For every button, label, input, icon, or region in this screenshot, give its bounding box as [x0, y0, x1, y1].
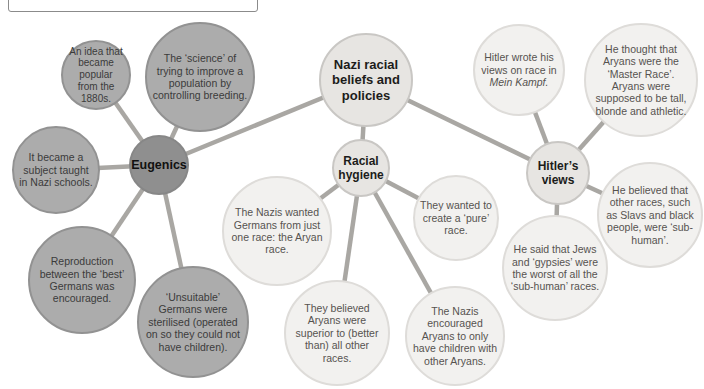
mind-map-diagram: An idea that became popular from the 188…	[0, 0, 704, 389]
hub-label: Racial hygiene	[338, 154, 383, 182]
racial-hygiene-satellite-children: The Nazis encouraged Aryans to only have…	[405, 286, 505, 386]
racial-hygiene-hub: Racial hygiene	[332, 139, 390, 197]
racial-hygiene-satellite-one-race: The Nazis wanted Germans from just one r…	[222, 176, 332, 286]
node-text: He thought that Aryans were the ‘Master …	[591, 43, 691, 117]
central-label: Nazi racial beliefs and policies	[326, 57, 406, 103]
hitlers-views-satellite-jews-gypsies: He said that Jews and ‘gypsies’ were the…	[502, 215, 608, 321]
mein-kampf-text: Hitler wrote his views on race in	[481, 51, 556, 75]
node-text: He believed that other races, such as Sl…	[604, 184, 696, 246]
eugenics-satellite-idea-1880s: An idea that became popular from the 188…	[61, 40, 131, 110]
eugenics-satellite-nazi-schools: It became a subject taught in Nazi schoo…	[12, 126, 100, 214]
node-text: They wanted to create a ‘pure’ race.	[420, 199, 492, 236]
racial-hygiene-satellite-pure-race: They wanted to create a ‘pure’ race.	[413, 175, 499, 261]
node-text: ‘Unsuitable’ Germans were sterilised (op…	[144, 291, 242, 353]
central-node: Nazi racial beliefs and policies	[319, 33, 413, 127]
node-text: They believed Aryans were superior to (b…	[291, 302, 383, 364]
eugenics-satellite-sterilised: ‘Unsuitable’ Germans were sterilised (op…	[137, 266, 249, 378]
hitlers-views-satellite-master-race: He thought that Aryans were the ‘Master …	[584, 23, 698, 137]
mein-kampf-italic: Mein Kampf.	[490, 76, 549, 88]
node-text: The ‘science’ of trying to improve a pop…	[152, 52, 248, 102]
node-text: The Nazis encouraged Aryans to only have…	[412, 305, 498, 367]
eugenics-satellite-reproduction: Reproduction between the ‘best’ Germans …	[28, 226, 136, 334]
eugenics-satellite-science-breeding: The ‘science’ of trying to improve a pop…	[145, 22, 255, 132]
node-text: Hitler wrote his views on race in Mein K…	[480, 51, 558, 88]
node-text: An idea that became popular from the 188…	[68, 46, 124, 105]
hitlers-views-satellite-sub-human-races: He believed that other races, such as Sl…	[597, 162, 703, 268]
node-text: The Nazis wanted Germans from just one r…	[229, 206, 325, 256]
racial-hygiene-satellite-superior: They believed Aryans were superior to (b…	[284, 280, 390, 386]
hub-label: Eugenics	[131, 158, 187, 173]
node-text: Reproduction between the ‘best’ Germans …	[35, 255, 129, 305]
node-text: He said that Jews and ‘gypsies’ were the…	[509, 243, 601, 293]
eugenics-hub: Eugenics	[129, 135, 189, 195]
hub-label: Hitler’s views	[533, 159, 583, 187]
node-text: It became a subject taught in Nazi schoo…	[19, 151, 93, 188]
hitlers-views-hub: Hitler’s views	[526, 141, 590, 205]
hitlers-views-satellite-mein-kampf: Hitler wrote his views on race in Mein K…	[473, 24, 565, 116]
